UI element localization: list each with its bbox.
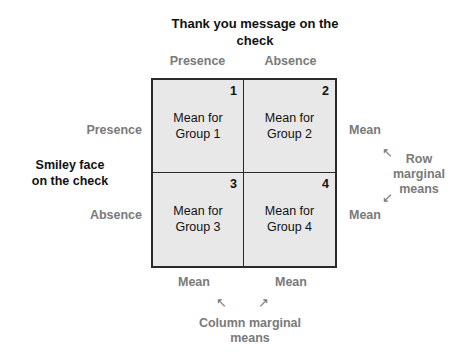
cell-group-4: 4 Mean for Group 4 bbox=[244, 173, 335, 266]
side-title-line-2: on the check bbox=[10, 173, 130, 189]
cell-label: Mean for Group 1 bbox=[153, 110, 243, 142]
cell-line-2: Group 2 bbox=[244, 126, 335, 142]
title-line-2: check bbox=[130, 32, 380, 49]
cell-line-2: Group 4 bbox=[244, 219, 335, 235]
cell-label: Mean for Group 2 bbox=[244, 110, 335, 142]
col-header-absence: Absence bbox=[244, 54, 337, 68]
cell-line-1: Mean for bbox=[153, 110, 243, 126]
cell-line-1: Mean for bbox=[244, 110, 335, 126]
cell-line-2: Group 1 bbox=[153, 126, 243, 142]
row-note-line-3: means bbox=[388, 182, 450, 197]
col-mean-2: Mean bbox=[275, 275, 307, 289]
row-mean-1: Mean bbox=[349, 123, 381, 137]
cell-group-1: 1 Mean for Group 1 bbox=[153, 80, 244, 173]
title-line-1: Thank you message on the bbox=[130, 15, 380, 32]
column-factor-title: Thank you message on the check bbox=[130, 15, 380, 49]
row-marginal-means-label: Row marginal means bbox=[388, 152, 450, 197]
column-marginal-means-label: Column marginal means bbox=[170, 316, 330, 346]
col-note-line-2: means bbox=[170, 331, 330, 346]
arrow-up-right-icon: ↗ bbox=[258, 295, 269, 310]
cell-number: 3 bbox=[230, 177, 237, 191]
cell-number: 2 bbox=[322, 84, 329, 98]
row-header-presence: Presence bbox=[42, 123, 142, 137]
row-mean-2: Mean bbox=[349, 208, 381, 222]
cell-line-1: Mean for bbox=[244, 203, 335, 219]
cell-label: Mean for Group 4 bbox=[244, 203, 335, 235]
cell-line-2: Group 3 bbox=[153, 219, 243, 235]
cell-label: Mean for Group 3 bbox=[153, 203, 243, 235]
row-note-line-2: marginal bbox=[388, 167, 450, 182]
cell-group-3: 3 Mean for Group 3 bbox=[153, 173, 244, 266]
means-grid: 1 Mean for Group 1 2 Mean for Group 2 3 … bbox=[151, 78, 337, 268]
cell-number: 4 bbox=[322, 177, 329, 191]
arrow-up-left-icon: ↖ bbox=[216, 295, 227, 310]
col-mean-1: Mean bbox=[178, 275, 210, 289]
cell-line-1: Mean for bbox=[153, 203, 243, 219]
row-factor-title: Smiley face on the check bbox=[10, 157, 130, 189]
col-note-line-1: Column marginal bbox=[170, 316, 330, 331]
row-note-line-1: Row bbox=[388, 152, 450, 167]
cell-number: 1 bbox=[230, 84, 237, 98]
side-title-line-1: Smiley face bbox=[10, 157, 130, 173]
col-header-presence: Presence bbox=[151, 54, 244, 68]
cell-group-2: 2 Mean for Group 2 bbox=[244, 80, 335, 173]
row-header-absence: Absence bbox=[42, 208, 142, 222]
